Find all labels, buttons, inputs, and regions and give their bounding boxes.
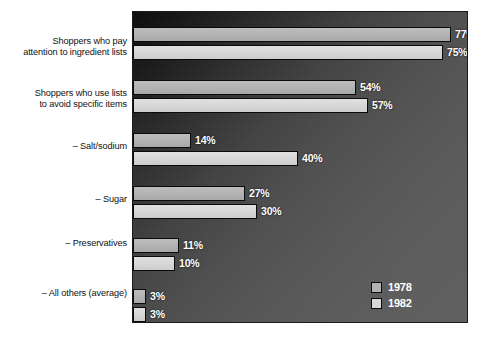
- bar-1978-1: [133, 80, 356, 95]
- bar-value-1982-0: 75%: [447, 45, 467, 60]
- bar-value-1978-5: 3%: [150, 289, 165, 304]
- legend-item-1978: 1978: [371, 280, 412, 294]
- bar-value-1978-3: 27%: [249, 186, 269, 201]
- bar-value-1982-2: 40%: [302, 151, 322, 166]
- bar-value-1978-0: 77%: [455, 27, 467, 42]
- category-label-3: – Sugar: [96, 194, 127, 205]
- bar-1978-3: [133, 186, 245, 201]
- legend-swatch-1978-icon: [371, 282, 382, 293]
- bar-value-1978-4: 11%: [183, 238, 203, 253]
- bar-value-1982-3: 30%: [261, 204, 281, 219]
- legend-label-1978: 1978: [388, 281, 412, 293]
- bar-value-1982-4: 10%: [179, 256, 199, 271]
- bar-chart-figure: Shoppers who pay attention to ingredient…: [0, 0, 487, 339]
- bar-value-1982-1: 57%: [372, 98, 392, 113]
- bar-value-1982-5: 3%: [150, 307, 165, 322]
- category-label-4: – Preservatives: [65, 238, 127, 249]
- chart-legend: 1978 1982: [371, 280, 412, 312]
- legend-label-1982: 1982: [388, 297, 412, 309]
- bar-1978-4: [133, 238, 179, 253]
- bar-1982-3: [133, 204, 257, 219]
- category-label-0: Shoppers who pay attention to ingredient…: [23, 36, 127, 59]
- category-label-1: Shoppers who use lists to avoid specific…: [35, 88, 127, 111]
- bar-1978-0: [133, 27, 451, 42]
- bar-1978-2: [133, 133, 191, 148]
- category-label-column: Shoppers who pay attention to ingredient…: [0, 0, 131, 339]
- bar-1982-1: [133, 98, 368, 113]
- category-label-5: – All others (average): [42, 288, 127, 299]
- bar-1982-4: [133, 256, 175, 271]
- plot-area: 77% 75% 54% 57% 14% 40% 27% 30% 11% 10% …: [133, 12, 467, 322]
- category-label-2: – Salt/sodium: [73, 141, 127, 152]
- bar-value-1978-1: 54%: [360, 80, 380, 95]
- legend-item-1982: 1982: [371, 296, 412, 310]
- bar-1982-0: [133, 45, 443, 60]
- bar-1978-5: [133, 289, 146, 304]
- bar-1982-2: [133, 151, 298, 166]
- legend-swatch-1982-icon: [371, 298, 382, 309]
- bar-1982-5: [133, 307, 146, 322]
- bar-value-1978-2: 14%: [195, 133, 215, 148]
